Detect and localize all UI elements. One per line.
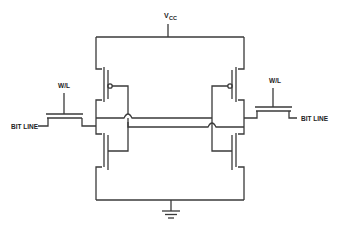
access-transistor-right: W/L BIT LINE bbox=[244, 77, 329, 122]
ground bbox=[96, 200, 244, 218]
pmos-left bbox=[96, 37, 128, 134]
nmos-right bbox=[212, 131, 244, 200]
cross-coupling-wires bbox=[96, 114, 244, 131]
wl-left-label: W/L bbox=[58, 82, 70, 89]
bitline-right-label: BIT LINE bbox=[301, 115, 329, 122]
access-transistor-left: W/L BIT LINE bbox=[11, 82, 96, 130]
pmos-right bbox=[212, 37, 244, 134]
sram-cell-schematic: V CC bbox=[0, 0, 339, 232]
bitline-left-label: BIT LINE bbox=[11, 123, 39, 130]
vcc-subscript: CC bbox=[169, 15, 177, 21]
wl-right-label: W/L bbox=[269, 77, 281, 84]
vcc-supply: V CC bbox=[96, 12, 244, 37]
